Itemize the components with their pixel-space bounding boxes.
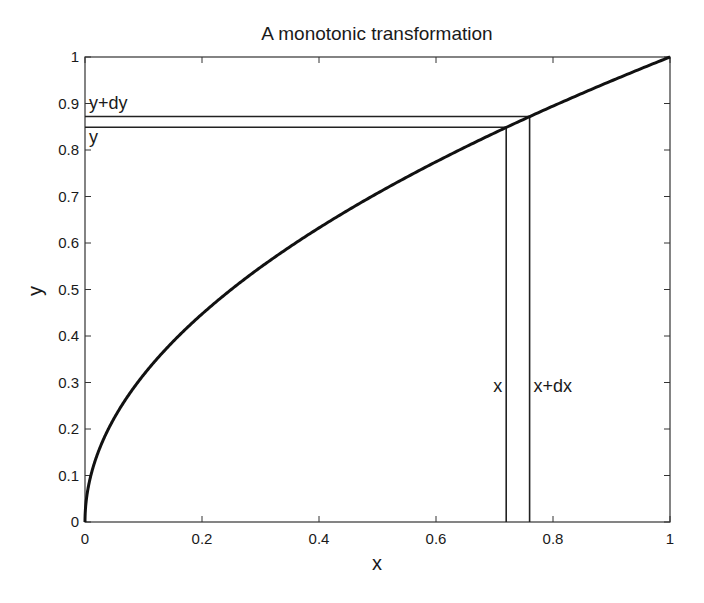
y-tick-label: 0 bbox=[71, 513, 79, 530]
annotation-y-plus-dy: y+dy bbox=[89, 93, 128, 113]
y-tick-label: 0.4 bbox=[58, 327, 79, 344]
x-axis: 00.20.40.60.81 bbox=[81, 57, 674, 547]
y-tick-label: 0.8 bbox=[58, 141, 79, 158]
y-tick-label: 0.3 bbox=[58, 374, 79, 391]
x-axis-label: x bbox=[372, 552, 382, 574]
y-axis-label: y bbox=[24, 286, 46, 296]
y-axis: 00.10.20.30.40.50.60.70.80.91 bbox=[58, 48, 670, 530]
x-tick-label: 0.6 bbox=[426, 530, 447, 547]
annotation-x-plus-dx: x+dx bbox=[534, 376, 573, 396]
x-tick-label: 1 bbox=[666, 530, 674, 547]
x-tick-label: 0 bbox=[81, 530, 89, 547]
chart: A monotonic transformation 00.20.40.60.8… bbox=[0, 0, 704, 603]
y-tick-label: 0.5 bbox=[58, 281, 79, 298]
annotations: xx+dxyy+dy bbox=[89, 93, 572, 396]
annotation-y: y bbox=[89, 127, 98, 147]
guide-lines bbox=[85, 117, 530, 522]
y-tick-label: 0.7 bbox=[58, 188, 79, 205]
chart-title: A monotonic transformation bbox=[261, 23, 492, 44]
x-tick-label: 0.4 bbox=[309, 530, 330, 547]
x-tick-label: 0.2 bbox=[192, 530, 213, 547]
y-tick-label: 0.9 bbox=[58, 95, 79, 112]
x-tick-label: 0.8 bbox=[543, 530, 564, 547]
y-tick-label: 0.1 bbox=[58, 467, 79, 484]
y-tick-label: 0.6 bbox=[58, 234, 79, 251]
y-tick-label: 1 bbox=[71, 48, 79, 65]
annotation-x: x bbox=[493, 376, 502, 396]
y-tick-label: 0.2 bbox=[58, 420, 79, 437]
